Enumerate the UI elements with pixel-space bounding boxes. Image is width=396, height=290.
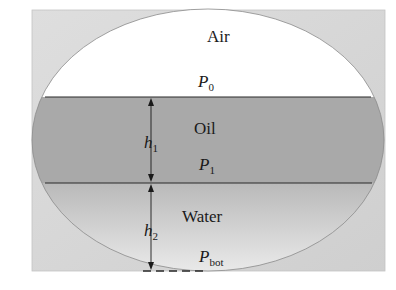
water-label: Water [182, 207, 222, 226]
oil-label: Oil [194, 119, 216, 138]
fluid-layers-diagram: Air P0 Oil h1 P1 Water h2 Pbot [0, 0, 396, 290]
air-label: Air [207, 27, 230, 46]
